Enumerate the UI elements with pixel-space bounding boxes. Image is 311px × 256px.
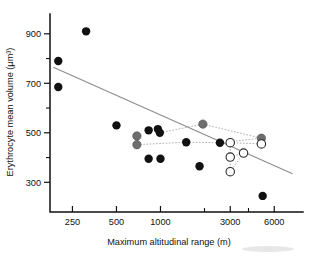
data-point-open <box>239 149 247 157</box>
y-tick-label-900: 900 <box>26 29 41 39</box>
x-tick-label-6000: 6000 <box>264 217 284 227</box>
x-tick-label-250: 250 <box>65 217 80 227</box>
data-point-gray <box>133 132 141 140</box>
data-point-filled <box>82 27 90 35</box>
data-point-filled <box>54 57 62 65</box>
scan-smudge <box>242 246 294 252</box>
scatter-plot-figure: 300500700900250500100030006000 Maximum a… <box>0 0 311 256</box>
data-point-filled <box>258 192 266 200</box>
x-tick-label-3000: 3000 <box>220 217 240 227</box>
data-point-gray <box>133 140 141 148</box>
data-point-filled <box>182 138 190 146</box>
data-point-filled <box>195 162 203 170</box>
x-tick-label-500: 500 <box>109 217 124 227</box>
y-tick-label-500: 500 <box>26 128 41 138</box>
data-point-gray <box>199 120 207 128</box>
data-point-filled <box>54 83 62 91</box>
data-point-filled <box>156 129 164 137</box>
data-point-open <box>226 139 234 147</box>
data-point-filled <box>144 126 152 134</box>
data-point-filled <box>144 155 152 163</box>
x-tick-label-1000: 1000 <box>150 217 170 227</box>
y-tick-label-700: 700 <box>26 79 41 89</box>
y-axis-title: Erythrocyte mean volume (µm³) <box>5 48 15 177</box>
data-point-open <box>226 153 234 161</box>
y-tick-label-300: 300 <box>26 178 41 188</box>
data-point-filled <box>156 155 164 163</box>
data-point-filled <box>216 139 224 147</box>
x-axis-title: Maximum altitudinal range (m) <box>107 237 231 247</box>
data-point-open <box>226 167 234 175</box>
data-point-open <box>257 140 265 148</box>
plot-canvas: 300500700900250500100030006000 Maximum a… <box>0 0 311 256</box>
data-point-filled <box>112 121 120 129</box>
